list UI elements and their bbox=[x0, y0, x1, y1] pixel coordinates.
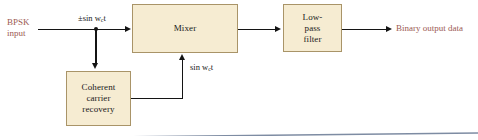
arrowhead-down-icon-carrier-in bbox=[92, 63, 98, 69]
wire-lowpass-to-output bbox=[342, 29, 387, 30]
block-lowpass-label-line2: pass bbox=[303, 23, 323, 34]
block-lowpass-label-line3: filter bbox=[303, 34, 323, 45]
block-coherent-carrier-recovery[interactable]: Coherent carrier recovery bbox=[66, 71, 131, 126]
baseline-svg bbox=[0, 130, 478, 136]
baseline-line bbox=[0, 133, 478, 136]
wire-tap-to-carrier-recovery bbox=[95, 29, 96, 64]
bpsk-input-label-line2: input bbox=[7, 28, 30, 39]
carrier-signal-suffix: t bbox=[211, 62, 213, 72]
bpsk-input-label: BPSK input bbox=[7, 17, 30, 39]
wire-mixer-to-lowpass bbox=[238, 29, 276, 30]
carrier-signal-expression-label: sin wct bbox=[190, 62, 213, 74]
block-mixer[interactable]: Mixer bbox=[132, 4, 238, 53]
block-low-pass-filter[interactable]: Low- pass filter bbox=[283, 4, 342, 52]
bpsk-demodulator-diagram: BPSK input ±sin wct Mixer Coherent carri… bbox=[0, 0, 478, 140]
wire-carrier-recovery-to-mixer-v bbox=[182, 60, 183, 99]
wire-carrier-recovery-to-mixer-h bbox=[131, 98, 183, 99]
block-lowpass-label-line1: Low- bbox=[303, 12, 323, 23]
slide-baseline-rule bbox=[0, 126, 478, 136]
arrowhead-up-icon-mixer-lo-in bbox=[179, 54, 185, 60]
input-signal-suffix: t bbox=[104, 13, 106, 23]
block-carrier-label-line3: recovery bbox=[82, 104, 116, 115]
binary-output-data-label: Binary output data bbox=[396, 23, 463, 34]
arrowhead-right-icon-output bbox=[386, 26, 392, 32]
block-mixer-label: Mixer bbox=[174, 23, 197, 34]
wire-input-to-mixer bbox=[38, 29, 126, 30]
carrier-signal-prefix: sin w bbox=[190, 62, 208, 72]
arrowhead-right-icon-lowpass-in bbox=[275, 26, 281, 32]
block-carrier-label-line2: carrier bbox=[82, 93, 116, 104]
input-signal-expression-label: ±sin wct bbox=[78, 13, 106, 25]
bpsk-input-label-line1: BPSK bbox=[7, 17, 30, 28]
arrowhead-right-icon-mixer-in bbox=[125, 26, 131, 32]
input-signal-prefix: ±sin w bbox=[78, 13, 101, 23]
block-carrier-label-line1: Coherent bbox=[82, 82, 116, 93]
